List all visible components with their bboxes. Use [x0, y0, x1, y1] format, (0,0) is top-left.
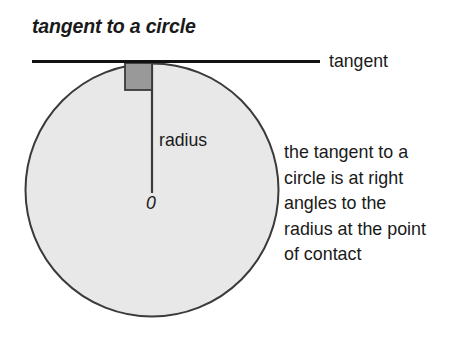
right-angle-square-icon — [125, 63, 152, 90]
description-line: angles to the — [284, 190, 453, 216]
description-line: radius at the point — [284, 216, 453, 242]
description-text: the tangent to a circle is at right angl… — [284, 139, 453, 267]
description-line: the tangent to a — [284, 139, 453, 165]
tangent-to-a-circle-figure: tangent to a circle tangent radius 0 the… — [0, 0, 471, 337]
description-line: of contact — [284, 241, 453, 267]
radius-line-label: radius — [159, 130, 207, 149]
description-line: circle is at right — [284, 165, 453, 191]
tangent-line-label: tangent — [329, 51, 388, 70]
circle-center-label: 0 — [146, 193, 156, 212]
figure-title: tangent to a circle — [32, 15, 196, 36]
